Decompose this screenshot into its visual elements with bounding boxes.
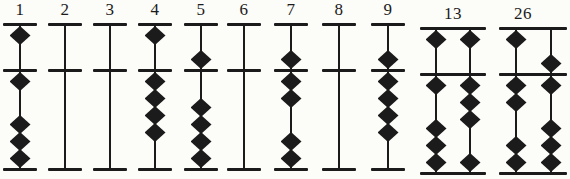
heaven-bead <box>460 30 481 49</box>
earth-bead <box>145 106 166 125</box>
column-label: 6 <box>222 0 266 20</box>
earth-bead <box>10 149 31 168</box>
earth-bead <box>426 136 447 155</box>
earth-bead <box>460 76 481 95</box>
column-label: 26 <box>501 4 545 24</box>
earth-bead <box>506 136 527 155</box>
heaven-bead <box>541 54 562 73</box>
column-label: 7 <box>269 0 313 20</box>
earth-bead <box>506 93 527 112</box>
abacus-rod <box>338 23 340 171</box>
abacus-rod <box>64 23 66 171</box>
earth-bead <box>145 89 166 108</box>
earth-bead <box>378 106 399 125</box>
heaven-bead <box>145 26 166 45</box>
abacus-rod <box>109 23 111 171</box>
earth-bead <box>541 76 562 95</box>
earth-bead <box>541 119 562 138</box>
bottom-frame-bar <box>420 172 486 175</box>
earth-bead <box>281 72 302 91</box>
column-label: 5 <box>179 0 223 20</box>
earth-bead <box>541 136 562 155</box>
earth-bead <box>10 132 31 151</box>
earth-bead <box>541 153 562 172</box>
earth-bead <box>506 153 527 172</box>
earth-bead <box>191 115 212 134</box>
earth-bead <box>145 72 166 91</box>
earth-bead <box>281 132 302 151</box>
reckoning-bar <box>499 73 567 76</box>
bottom-frame-bar <box>499 172 567 175</box>
top-frame-bar <box>420 27 486 30</box>
column-label: 1 <box>0 0 42 20</box>
earth-bead <box>460 93 481 112</box>
heaven-bead <box>281 50 302 69</box>
earth-bead <box>378 72 399 91</box>
earth-bead <box>460 110 481 129</box>
earth-bead <box>191 149 212 168</box>
abacus-rod <box>243 23 245 171</box>
earth-bead <box>378 89 399 108</box>
column-label: 9 <box>366 0 410 20</box>
earth-bead <box>426 119 447 138</box>
earth-bead <box>10 72 31 91</box>
heaven-bead <box>426 30 447 49</box>
earth-bead <box>378 123 399 142</box>
column-label: 4 <box>133 0 177 20</box>
column-label: 13 <box>431 4 475 24</box>
earth-bead <box>10 115 31 134</box>
heaven-bead <box>506 30 527 49</box>
column-label: 8 <box>317 0 361 20</box>
earth-bead <box>191 132 212 151</box>
earth-bead <box>460 153 481 172</box>
earth-bead <box>145 123 166 142</box>
heaven-bead <box>10 26 31 45</box>
top-frame-bar <box>499 27 567 30</box>
heaven-bead <box>378 50 399 69</box>
column-label: 2 <box>43 0 87 20</box>
earth-bead <box>426 153 447 172</box>
reckoning-bar <box>420 73 486 76</box>
earth-bead <box>506 76 527 95</box>
earth-bead <box>426 76 447 95</box>
heaven-bead <box>191 50 212 69</box>
column-label: 3 <box>88 0 132 20</box>
earth-bead <box>191 98 212 117</box>
abacus-figure: 1234567891326 <box>0 0 570 179</box>
earth-bead <box>281 149 302 168</box>
earth-bead <box>281 89 302 108</box>
